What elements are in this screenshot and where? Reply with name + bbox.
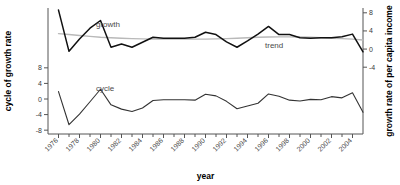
y-left-tick-label: 8 bbox=[38, 64, 42, 71]
chart-axes bbox=[44, 8, 367, 138]
y-left-tick-label: 4 bbox=[38, 80, 42, 87]
chart-figure: 1976197819801982198419861988199019921994… bbox=[0, 0, 400, 185]
x-tick-label: 1996 bbox=[253, 137, 269, 153]
x-tick-label: 1980 bbox=[85, 137, 101, 153]
series-label-cycle: cycle bbox=[96, 84, 115, 93]
chart-plot-area: 1976197819801982198419861988199019921994… bbox=[0, 0, 400, 185]
y-axis-left-title: cycle of growth rate bbox=[3, 31, 13, 112]
x-tick-label: 1984 bbox=[127, 137, 143, 153]
series-label-trend: trend bbox=[265, 41, 283, 50]
x-tick-label: 1992 bbox=[211, 137, 227, 153]
y-right-tick-label: 0 bbox=[369, 46, 373, 53]
x-tick-label: 1986 bbox=[148, 137, 164, 153]
y-left-tick-label: -8 bbox=[36, 127, 42, 134]
x-tick-label: 1982 bbox=[106, 137, 122, 153]
x-axis-title: year bbox=[197, 171, 215, 181]
y-right-tick-label: 4 bbox=[369, 27, 373, 34]
x-tick-label: 1976 bbox=[43, 137, 59, 153]
y-left-tick-label: 0 bbox=[38, 96, 42, 103]
x-tick-label: 2002 bbox=[316, 137, 332, 153]
series-label-growth: growth bbox=[96, 20, 120, 29]
y-left-tick-label: -4 bbox=[36, 111, 42, 118]
y-right-tick-label: 8 bbox=[369, 9, 373, 16]
y-axis-right-title: growth rate of per capita income bbox=[384, 5, 394, 137]
chart-text-layer: 1976197819801982198419861988199019921994… bbox=[3, 5, 394, 181]
series-line-trend bbox=[59, 34, 364, 40]
x-tick-label: 1990 bbox=[190, 137, 206, 153]
x-tick-label: 2004 bbox=[337, 137, 353, 153]
x-tick-label: 1978 bbox=[64, 137, 80, 153]
y-right-tick-label: -4 bbox=[369, 64, 375, 71]
series-line-cycle bbox=[59, 89, 364, 124]
x-tick-label: 1998 bbox=[274, 137, 290, 153]
x-tick-label: 1988 bbox=[169, 137, 185, 153]
series-line-growth bbox=[59, 10, 364, 52]
x-tick-label: 2000 bbox=[295, 137, 311, 153]
x-tick-label: 1994 bbox=[232, 137, 248, 153]
